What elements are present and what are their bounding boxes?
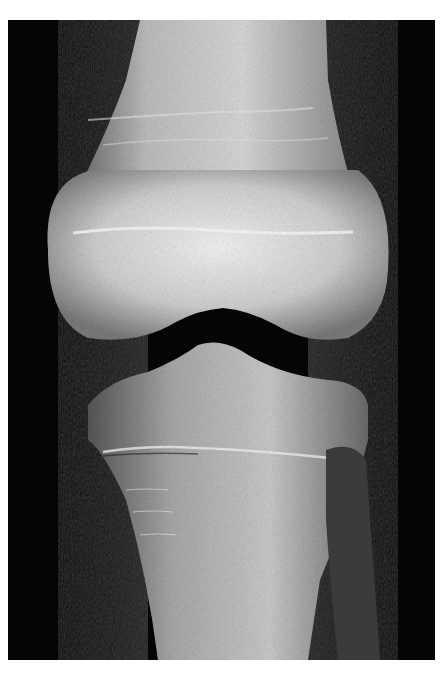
knee-radiograph [8,20,435,660]
femur-condyles [48,170,389,340]
xray-image [8,20,435,660]
